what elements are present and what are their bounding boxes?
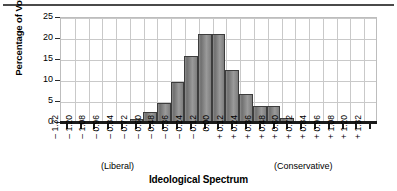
bar-cell [349,18,363,122]
bar-cell [362,18,376,122]
plot-area [60,17,377,122]
bar-cell [102,18,116,122]
bar [184,56,198,122]
x-tick-label: + 0.12 [216,115,225,147]
y-axis-title: Percentage of Voters [13,0,24,86]
bar-cell [88,18,102,122]
bar-cell [239,18,253,122]
x-axis-title: Ideological Spectrum [0,174,397,185]
y-tick-label: 5 [27,96,53,105]
x-tick-label: + 0.60 [271,115,280,147]
bar [198,34,212,122]
top-rule-divider [3,4,394,6]
bar-cell [75,18,89,122]
bar-cell [130,18,144,122]
bar-cell [321,18,335,122]
y-tick-label: 15 [27,54,53,63]
x-tick-label: + 0.84 [299,115,308,147]
x-tick-label: – 0.36 [161,115,170,147]
chart-figure: Percentage of Voters 0510152025 – 1.32– … [0,0,397,191]
x-axis-tick-labels: – 1.32– 1.20– 1.08– 0.96– 0.84– 0.72– 0.… [60,130,377,162]
bar-cell [225,18,239,122]
bar-cell [253,18,267,122]
bar-cell [294,18,308,122]
y-tick-label: 25 [27,12,53,21]
bar-cell [198,18,212,122]
x-tick-label: – 0.48 [147,115,156,147]
x-tick-label: – 0.24 [175,115,184,147]
bar-series [61,18,376,122]
bar [212,34,226,122]
bar-cell [308,18,322,122]
x-tick-label: – 0.72 [120,115,129,147]
x-label-cell: + 1.32 [363,130,377,162]
y-tick-label: 10 [27,75,53,84]
x-tick-label: + 1.08 [327,115,336,147]
bar-cell [61,18,75,122]
x-tick-label: 0.00 [202,115,211,147]
bar-cell [280,18,294,122]
bar-cell [143,18,157,122]
x-tick-label: + 0.24 [230,115,239,147]
x-tick-label: – 0.84 [106,115,115,147]
annotation-liberal: (Liberal) [101,161,134,171]
x-tick-label: – 1.08 [78,115,87,147]
x-tick-label: + 0.96 [313,115,322,147]
bar-cell [171,18,185,122]
x-tick-label: + 1.32 [354,115,363,147]
bar-cell [212,18,226,122]
annotation-conservative: (Conservative) [274,161,333,171]
x-tick-label: – 1.20 [65,115,74,147]
bar-cell [116,18,130,122]
bar-cell [157,18,171,122]
x-tick-label: – 1.32 [51,115,60,147]
x-tick-label: + 1.20 [340,115,349,147]
x-tick-label: – 0.60 [134,115,143,147]
y-tick-label: 20 [27,33,53,42]
bar-cell [267,18,281,122]
x-tick-label: – 0.12 [189,115,198,147]
bar-cell [184,18,198,122]
x-tick-label: + 0.72 [285,115,294,147]
bar-cell [335,18,349,122]
x-tick-label: + 0.48 [258,115,267,147]
x-tick-label: – 0.96 [92,115,101,147]
x-tick-mark [369,124,371,129]
x-tick-label: + 0.36 [244,115,253,147]
